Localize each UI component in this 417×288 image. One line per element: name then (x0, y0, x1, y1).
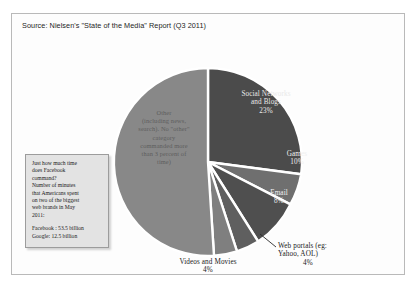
facebook-time-note-box: Just how much time does Facebook command… (25, 154, 109, 248)
note-stat-google: Google: 12.5 billion (32, 233, 103, 240)
web-portals-leader-line (260, 234, 276, 247)
note-stat-facebook: Facebook : 53.5 billion (32, 225, 103, 232)
pie-label-social-networks-line2: and Blogs (224, 98, 308, 106)
pie-label-web-portals: Web portals (eg: Yahoo, AOL) 4% (278, 242, 360, 267)
pie-label-other-line6: than 3 percent of (116, 150, 212, 158)
pie-label-email: Email 8% (259, 189, 299, 206)
pie-label-social-networks: Social Networks and Blogs 23% (224, 90, 308, 115)
note-line-4: Number of minutes (32, 182, 103, 189)
pie-label-other-line7: time) (116, 158, 212, 166)
note-line-7: web brands in May (32, 204, 103, 211)
pie-slice-videos-and-movies (208, 162, 237, 256)
pie-label-other-line1: Other (116, 109, 212, 117)
note-line-8: 2011: (32, 212, 103, 219)
pie-label-web-portals-line2: Yahoo, AOL) (278, 250, 360, 258)
pie-label-email-line1: Email (259, 189, 299, 197)
source-caption: Source: Nielsen's "State of the Media" R… (22, 21, 206, 30)
pie-label-other: Other (including news, search). No "othe… (116, 109, 212, 166)
pie-label-web-portals-line1: Web portals (eg: (278, 242, 360, 250)
pie-label-social-networks-value: 23% (224, 107, 308, 115)
note-line-1: Just how much time (32, 160, 103, 167)
pie-label-other-line4: category (116, 134, 212, 142)
note-line-6: on two of the biggest (32, 197, 103, 204)
chart-figure-frame: Source: Nielsen's "State of the Media" R… (11, 13, 405, 275)
pie-label-other-line2: (including news, (116, 117, 212, 125)
pie-label-other-line3: search). No "other" (116, 125, 212, 133)
note-line-2: does Facebook (32, 167, 103, 174)
pie-label-email-value: 8% (259, 197, 299, 205)
pie-label-videos-value: 4% (160, 266, 256, 274)
pie-label-social-networks-line1: Social Networks (224, 90, 308, 98)
pie-label-games-value: 10% (274, 158, 320, 166)
pie-label-games-line1: Games (274, 150, 320, 158)
note-line-3: command? (32, 175, 103, 182)
pie-label-videos-and-movies: Videos and Movies 4% (160, 258, 256, 275)
note-line-5: that Americans spent (32, 190, 103, 197)
pie-label-other-line5: commanded more (116, 142, 212, 150)
pie-label-videos-line1: Videos and Movies (160, 258, 256, 266)
pie-label-games: Games 10% (274, 150, 320, 167)
pie-slice-web-portals (208, 162, 258, 251)
pie-label-web-portals-value: 4% (278, 259, 338, 267)
